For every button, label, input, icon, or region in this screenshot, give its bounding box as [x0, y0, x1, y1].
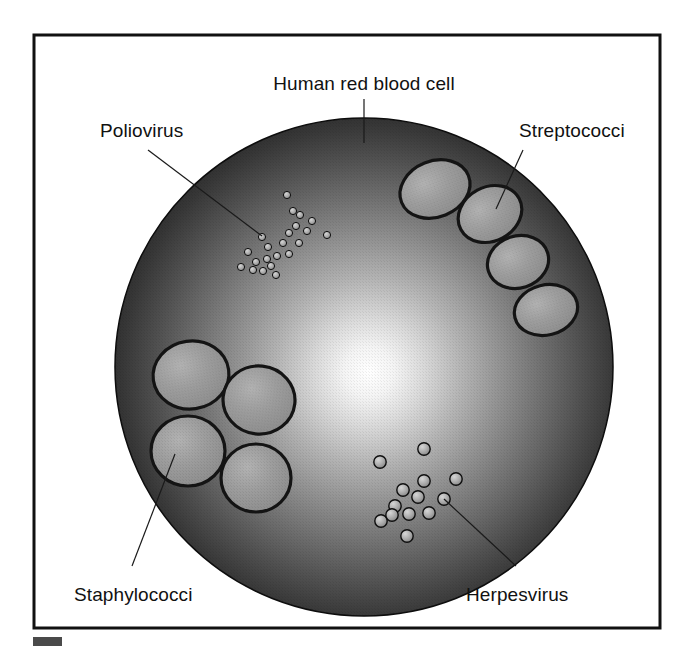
poliovirus-particle-13	[292, 222, 299, 229]
label-poliovirus: Poliovirus	[100, 120, 183, 141]
poliovirus-particle-11	[279, 239, 286, 246]
poliovirus-particle-15	[296, 211, 303, 218]
label-staphylococci: Staphylococci	[74, 584, 193, 605]
poliovirus-particle-9	[273, 252, 280, 259]
staphylococcus-cell-texture-3	[153, 418, 224, 485]
herpesvirus-particle-12	[401, 530, 413, 542]
staphylococcus-cell-texture-4	[223, 446, 290, 511]
poliovirus-particle-5	[249, 266, 256, 273]
herpesvirus-particle-6	[412, 491, 424, 503]
poliovirus-particle-14	[289, 207, 296, 214]
poliovirus-particle-20	[283, 191, 290, 198]
poliovirus-particle-17	[295, 239, 302, 246]
label-human-red-blood-cell: Human red blood cell	[273, 73, 455, 94]
poliovirus-particle-22	[323, 231, 330, 238]
scale-bar-marker	[33, 637, 62, 646]
herpesvirus-particle-13	[386, 509, 398, 521]
poliovirus-particle-7	[259, 267, 266, 274]
herpesvirus-particle-3	[418, 475, 430, 487]
herpesvirus-particle-4	[450, 473, 462, 485]
figure-canvas: Human red blood cellPoliovirusStreptococ…	[0, 0, 687, 657]
herpesvirus-particle-10	[423, 507, 435, 519]
poliovirus-particle-10	[264, 243, 271, 250]
herpesvirus-particle-2	[374, 456, 386, 468]
figure-root: Human red blood cellPoliovirusStreptococ…	[0, 0, 687, 657]
herpesvirus-particle-9	[403, 508, 415, 520]
poliovirus-particle-16	[303, 227, 310, 234]
poliovirus-particle-18	[285, 250, 292, 257]
poliovirus-particle-2	[263, 255, 270, 262]
poliovirus-particle-19	[272, 271, 279, 278]
label-herpesvirus: Herpesvirus	[466, 584, 568, 605]
herpesvirus-particle-5	[397, 484, 409, 496]
poliovirus-particle-3	[244, 248, 251, 255]
poliovirus-particle-6	[237, 263, 244, 270]
poliovirus-particle-21	[308, 217, 315, 224]
label-streptococci: Streptococci	[519, 120, 625, 141]
poliovirus-particle-12	[285, 229, 292, 236]
herpesvirus-particle-1	[418, 443, 430, 455]
poliovirus-particle-4	[252, 258, 259, 265]
poliovirus-particle-8	[267, 262, 274, 269]
